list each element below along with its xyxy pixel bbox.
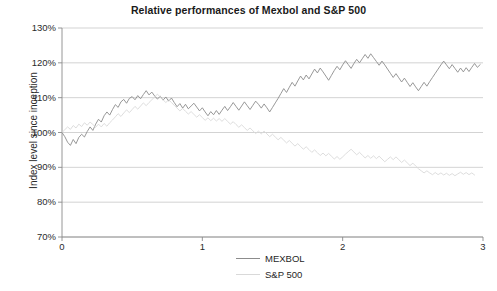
gridlines xyxy=(62,28,483,237)
legend-item: S&P 500 xyxy=(236,268,305,281)
legend-color-swatch xyxy=(236,274,260,276)
chart-legend: MEXBOLS&P 500 xyxy=(236,252,305,281)
x-tick-label: 3 xyxy=(468,241,497,252)
legend-color-swatch xyxy=(236,258,260,260)
legend-label: MEXBOL xyxy=(265,253,305,264)
chart-container: Relative performances of Mexbol and S&P … xyxy=(0,0,497,291)
x-tick-label: 1 xyxy=(187,241,217,252)
x-tick-label: 2 xyxy=(328,241,358,252)
legend-label: S&P 500 xyxy=(265,269,302,280)
series-lines xyxy=(62,54,480,176)
x-tick-label: 0 xyxy=(47,241,77,252)
legend-item: MEXBOL xyxy=(236,252,305,265)
x-axis-tick-marks xyxy=(58,28,483,241)
